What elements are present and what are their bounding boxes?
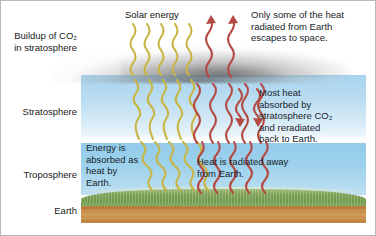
label-earth: Earth — [3, 205, 77, 217]
solar-rays-upper — [127, 23, 201, 77]
heat-rays-escaping — [197, 13, 249, 79]
arrowhead-up-right — [228, 15, 238, 24]
callout-absorbed-reradiated: Most heat absorbed by stratosphere CO₂ a… — [259, 87, 375, 145]
arrowhead-up-left — [206, 15, 216, 24]
callout-heat-escapes: Only some of the heat radiated from Eart… — [251, 9, 376, 44]
callout-solar-energy: Solar energy — [125, 9, 179, 21]
soil-layer — [81, 206, 366, 223]
label-stratosphere: Stratosphere — [3, 106, 77, 118]
label-troposphere: Troposphere — [3, 169, 77, 181]
co2-haze-core — [121, 43, 351, 77]
callout-heat-radiated-away: Heat is radiated away from Earth. — [197, 156, 327, 179]
greenhouse-effect-diagram: Buildup of CO₂ in stratosphere Stratosph… — [0, 0, 376, 236]
label-buildup-co2: Buildup of CO₂ in stratosphere — [3, 30, 77, 53]
callout-energy-absorbed: Energy is absorbed as heat by Earth. — [86, 142, 148, 188]
